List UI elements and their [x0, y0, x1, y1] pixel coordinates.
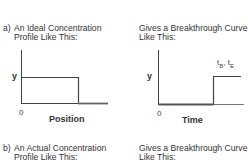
panel-b-letter: b) — [3, 144, 11, 154]
breakthrough-plot-y-label: y — [147, 71, 152, 81]
breakthrough-line — [159, 77, 242, 105]
breakthrough-time-annotation: tB, tE — [217, 58, 234, 69]
ideal-plot-y-label: y — [12, 71, 17, 81]
ideal-plot-origin-label: 0 — [19, 108, 23, 117]
concentration-plots — [0, 0, 248, 164]
breakthrough-plot-origin-label: 0 — [157, 109, 161, 118]
breakthrough-plot-x-label: Time — [182, 115, 203, 125]
panel-b-caption-line2: Profile Like This: — [14, 153, 77, 163]
profile-line — [22, 78, 109, 104]
te-sub: E — [230, 63, 234, 69]
ideal-profile-plot — [22, 50, 109, 104]
ideal-plot-x-label: Position — [49, 114, 85, 124]
panel-b-right-caption-line2: Like This: — [139, 153, 176, 163]
